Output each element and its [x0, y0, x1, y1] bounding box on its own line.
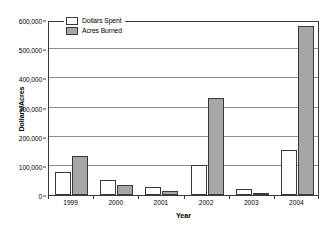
- x-axis-tick-label-2002: 2002: [199, 199, 214, 206]
- bar-group: [236, 22, 269, 195]
- bar-dollars-spent-2004: [281, 150, 297, 195]
- x-axis-tick-label-1999: 1999: [63, 199, 78, 206]
- y-axis-ticks: 0100,000200,000300,000400,000500,000600,…: [0, 21, 46, 196]
- x-axis-tick-mark: [138, 196, 139, 199]
- y-axis-tick-mark: [43, 50, 46, 51]
- x-axis-tick-mark: [48, 196, 49, 199]
- x-axis-title: Year: [48, 211, 319, 220]
- y-axis-tick-label: 300,000: [19, 105, 42, 112]
- y-axis-tick-label: 0: [38, 193, 42, 200]
- x-axis-tick-label-2000: 2000: [108, 199, 123, 206]
- bar-dollars-spent-2002: [191, 165, 207, 195]
- y-axis-tick-mark: [43, 79, 46, 80]
- y-axis-tick-label: 200,000: [19, 134, 42, 141]
- bar-chart: Dollars/Acres 0100,000200,000300,000400,…: [0, 0, 330, 228]
- bar-dollars-spent-2003: [236, 189, 252, 195]
- x-axis-tick-mark: [229, 196, 230, 199]
- bar-dollars-spent-1999: [55, 172, 71, 195]
- bars-layer: [49, 22, 318, 195]
- bar-group: [100, 22, 133, 195]
- y-axis-tick-label: 100,000: [19, 163, 42, 170]
- legend-label: Dollars Spent: [82, 17, 122, 24]
- bar-dollars-spent-2001: [145, 187, 161, 195]
- x-axis-tick-label-2004: 2004: [289, 199, 304, 206]
- bar-acres-burned-2000: [117, 185, 133, 195]
- y-axis-tick-mark: [43, 21, 46, 22]
- x-axis-tick-mark: [184, 196, 185, 199]
- y-axis-tick-mark: [43, 108, 46, 109]
- bar-acres-burned-2004: [298, 26, 314, 195]
- bar-group: [55, 22, 88, 195]
- x-axis-tick-label-2001: 2001: [154, 199, 169, 206]
- plot-area: [48, 21, 319, 196]
- legend-item-acres-burned: Acres Burned: [66, 26, 122, 35]
- x-axis-tick-mark: [93, 196, 94, 199]
- x-axis-tick-mark: [318, 196, 319, 199]
- y-axis-tick-mark: [43, 196, 46, 197]
- legend-swatch-icon: [66, 17, 78, 25]
- bar-group: [145, 22, 178, 195]
- y-axis-tick-label: 500,000: [19, 47, 42, 54]
- bar-acres-burned-1999: [72, 156, 88, 195]
- y-axis-tick-mark: [43, 166, 46, 167]
- bar-acres-burned-2003: [253, 193, 269, 195]
- bar-acres-burned-2002: [208, 98, 224, 195]
- legend-item-dollars-spent: Dollars Spent: [66, 16, 122, 25]
- legend-label: Acres Burned: [82, 27, 122, 34]
- x-axis-tick-mark: [274, 196, 275, 199]
- bar-acres-burned-2001: [162, 191, 178, 195]
- y-axis-tick-label: 400,000: [19, 76, 42, 83]
- x-axis-ticks: 199920002001200220032004: [48, 196, 319, 212]
- x-axis-tick-label-2003: 2003: [244, 199, 259, 206]
- y-axis-tick-label: 600,000: [19, 18, 42, 25]
- bar-group: [281, 22, 314, 195]
- bar-dollars-spent-2000: [100, 180, 116, 195]
- bar-group: [191, 22, 224, 195]
- legend: Dollars SpentAcres Burned: [64, 14, 125, 37]
- legend-swatch-icon: [66, 27, 78, 35]
- y-axis-tick-mark: [43, 137, 46, 138]
